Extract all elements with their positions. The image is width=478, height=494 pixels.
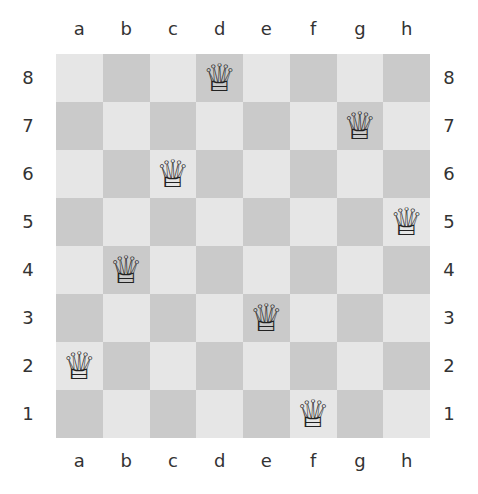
square-c7[interactable]	[150, 102, 197, 150]
square-c3[interactable]	[150, 294, 197, 342]
bottom-file-label-g: g	[337, 450, 384, 471]
square-c6[interactable]: ♕	[150, 150, 197, 198]
square-a8[interactable]	[56, 54, 103, 102]
square-e4[interactable]	[243, 246, 290, 294]
square-e5[interactable]	[243, 198, 290, 246]
right-rank-label-4: 4	[437, 259, 461, 280]
bottom-file-label-d: d	[196, 450, 243, 471]
square-a3[interactable]	[56, 294, 103, 342]
top-file-label-h: h	[383, 18, 430, 39]
square-d3[interactable]	[196, 294, 243, 342]
square-g2[interactable]	[337, 342, 384, 390]
left-rank-label-2: 2	[16, 355, 40, 376]
square-a4[interactable]	[56, 246, 103, 294]
queen-icon[interactable]: ♕	[109, 251, 143, 289]
top-file-label-e: e	[243, 18, 290, 39]
bottom-file-label-b: b	[103, 450, 150, 471]
left-rank-label-3: 3	[16, 307, 40, 328]
top-file-label-a: a	[56, 18, 103, 39]
square-f4[interactable]	[290, 246, 337, 294]
top-file-label-b: b	[103, 18, 150, 39]
square-c2[interactable]	[150, 342, 197, 390]
right-rank-label-3: 3	[437, 307, 461, 328]
square-a7[interactable]	[56, 102, 103, 150]
bottom-file-label-a: a	[56, 450, 103, 471]
square-d4[interactable]	[196, 246, 243, 294]
square-e3[interactable]: ♕	[243, 294, 290, 342]
square-h7[interactable]	[383, 102, 430, 150]
square-f3[interactable]	[290, 294, 337, 342]
queen-icon[interactable]: ♕	[343, 107, 377, 145]
square-h8[interactable]	[383, 54, 430, 102]
square-e6[interactable]	[243, 150, 290, 198]
square-h2[interactable]	[383, 342, 430, 390]
square-f8[interactable]	[290, 54, 337, 102]
right-rank-label-5: 5	[437, 211, 461, 232]
square-d1[interactable]	[196, 390, 243, 438]
square-b2[interactable]	[103, 342, 150, 390]
queen-icon[interactable]: ♕	[390, 203, 424, 241]
square-g8[interactable]	[337, 54, 384, 102]
square-g6[interactable]	[337, 150, 384, 198]
square-b1[interactable]	[103, 390, 150, 438]
bottom-file-label-e: e	[243, 450, 290, 471]
queen-icon[interactable]: ♕	[62, 347, 96, 385]
square-e1[interactable]	[243, 390, 290, 438]
left-rank-label-5: 5	[16, 211, 40, 232]
square-d5[interactable]	[196, 198, 243, 246]
square-e8[interactable]	[243, 54, 290, 102]
square-a5[interactable]	[56, 198, 103, 246]
queen-icon[interactable]: ♕	[203, 59, 237, 97]
square-h6[interactable]	[383, 150, 430, 198]
square-a2[interactable]: ♕	[56, 342, 103, 390]
bottom-file-label-h: h	[383, 450, 430, 471]
right-rank-label-2: 2	[437, 355, 461, 376]
left-rank-label-7: 7	[16, 115, 40, 136]
square-g7[interactable]: ♕	[337, 102, 384, 150]
queen-icon[interactable]: ♕	[249, 299, 283, 337]
queen-icon[interactable]: ♕	[156, 155, 190, 193]
square-h5[interactable]: ♕	[383, 198, 430, 246]
square-h3[interactable]	[383, 294, 430, 342]
top-file-label-g: g	[337, 18, 384, 39]
square-b4[interactable]: ♕	[103, 246, 150, 294]
square-f1[interactable]: ♕	[290, 390, 337, 438]
square-f7[interactable]	[290, 102, 337, 150]
square-c4[interactable]	[150, 246, 197, 294]
square-d7[interactable]	[196, 102, 243, 150]
square-a6[interactable]	[56, 150, 103, 198]
square-h1[interactable]	[383, 390, 430, 438]
square-e7[interactable]	[243, 102, 290, 150]
square-c5[interactable]	[150, 198, 197, 246]
right-rank-label-1: 1	[437, 403, 461, 424]
square-e2[interactable]	[243, 342, 290, 390]
left-rank-label-8: 8	[16, 67, 40, 88]
square-b6[interactable]	[103, 150, 150, 198]
square-d2[interactable]	[196, 342, 243, 390]
square-g3[interactable]	[337, 294, 384, 342]
square-g1[interactable]	[337, 390, 384, 438]
bottom-file-label-f: f	[290, 450, 337, 471]
square-b8[interactable]	[103, 54, 150, 102]
left-rank-label-4: 4	[16, 259, 40, 280]
square-c8[interactable]	[150, 54, 197, 102]
square-d6[interactable]	[196, 150, 243, 198]
top-file-label-d: d	[196, 18, 243, 39]
left-rank-label-1: 1	[16, 403, 40, 424]
square-a1[interactable]	[56, 390, 103, 438]
square-f6[interactable]	[290, 150, 337, 198]
square-b3[interactable]	[103, 294, 150, 342]
square-c1[interactable]	[150, 390, 197, 438]
square-b5[interactable]	[103, 198, 150, 246]
square-f5[interactable]	[290, 198, 337, 246]
chess-board: ♕♕♕♕♕♕♕♕	[56, 54, 430, 438]
top-file-label-f: f	[290, 18, 337, 39]
square-b7[interactable]	[103, 102, 150, 150]
square-g4[interactable]	[337, 246, 384, 294]
square-f2[interactable]	[290, 342, 337, 390]
queen-icon[interactable]: ♕	[296, 395, 330, 433]
square-d8[interactable]: ♕	[196, 54, 243, 102]
square-g5[interactable]	[337, 198, 384, 246]
square-h4[interactable]	[383, 246, 430, 294]
right-rank-label-8: 8	[437, 67, 461, 88]
